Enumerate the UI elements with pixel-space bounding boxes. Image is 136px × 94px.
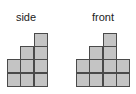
front-cube-cell [89,73,103,87]
side-cube-cell [7,73,21,87]
side-cube-cell [34,73,48,87]
side-cube-cell [7,59,21,73]
side-view-label: side [10,11,42,23]
side-cube-cell [34,46,48,60]
front-cube-cell [76,73,90,87]
front-cube-cell [103,46,117,60]
side-cube-cell [20,73,34,87]
front-cube-cell [103,33,117,47]
side-cube-cell [20,46,34,60]
side-cube-cell [34,33,48,47]
front-view-label: front [84,11,122,23]
front-cube-cell [116,73,130,87]
front-cube-cell [89,46,103,60]
front-cube-cell [89,59,103,73]
front-cube-cell [103,59,117,73]
side-cube-cell [20,59,34,73]
front-cube-cell [103,73,117,87]
front-cube-cell [76,59,90,73]
front-cube-cell [116,59,130,73]
side-cube-cell [34,59,48,73]
